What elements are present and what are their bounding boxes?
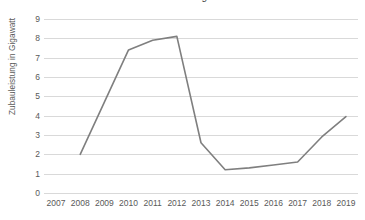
y-axis-title: Zubauleistung in Gigawatt	[8, 0, 17, 137]
y-tick-label: 6	[26, 73, 40, 82]
y-tick-label: 5	[26, 92, 40, 101]
series-layer	[44, 19, 358, 193]
line-chart: Zubau von Photovoltaikanlagen in Deutsch…	[0, 0, 365, 220]
y-tick-label: 8	[26, 34, 40, 43]
y-tick-label: 4	[26, 111, 40, 120]
x-axis-tick-labels: 2007200820092010201120122013201420152016…	[44, 198, 358, 212]
plot-area	[44, 19, 358, 193]
gridline	[44, 193, 358, 194]
x-tick-label: 2019	[331, 198, 361, 208]
y-axis-tick-labels: 0123456789	[24, 19, 40, 193]
y-tick-label: 0	[26, 189, 40, 198]
chart-title: Zubau von Photovoltaikanlagen in Deutsch…	[0, 0, 365, 2]
y-tick-label: 2	[26, 150, 40, 159]
y-tick-label: 7	[26, 53, 40, 62]
y-tick-label: 9	[26, 15, 40, 24]
y-tick-label: 1	[26, 169, 40, 178]
y-tick-label: 3	[26, 131, 40, 140]
series-line	[80, 36, 346, 169]
